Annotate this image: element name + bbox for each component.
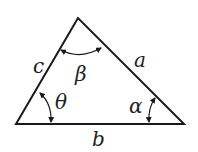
angle-theta-arc [40, 93, 51, 122]
side-label-b: b [92, 127, 105, 151]
side-label-a: a [134, 48, 146, 72]
triangle-diagram: c a b β θ α [0, 0, 198, 152]
angle-beta-arc [61, 48, 101, 55]
side-label-c: c [33, 54, 44, 78]
angle-alpha-arc [149, 98, 155, 122]
angle-label-theta: θ [55, 90, 67, 114]
angle-label-beta: β [74, 62, 87, 86]
angle-label-alpha: α [129, 94, 143, 118]
